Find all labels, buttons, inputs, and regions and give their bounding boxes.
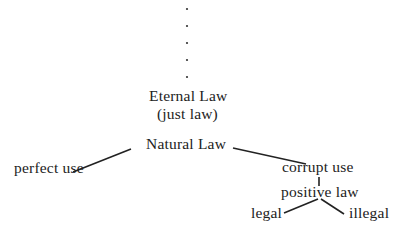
ellipsis-dots xyxy=(186,8,188,78)
edge-positive-illegal xyxy=(321,199,344,214)
node-natural-law: Natural Law xyxy=(146,136,226,152)
node-corrupt-use: corrupt use xyxy=(282,159,354,175)
node-legal: legal xyxy=(251,205,282,221)
node-illegal: illegal xyxy=(349,205,389,221)
node-eternal-law-subtitle: (just law) xyxy=(157,106,218,122)
node-eternal-law: Eternal Law xyxy=(149,88,227,104)
node-positive-law: positive law xyxy=(281,184,359,200)
edge-positive-legal xyxy=(284,199,318,213)
node-perfect-use: perfect use xyxy=(14,160,84,176)
law-hierarchy-diagram: Eternal Law (just law) Natural Law perfe… xyxy=(0,0,400,235)
